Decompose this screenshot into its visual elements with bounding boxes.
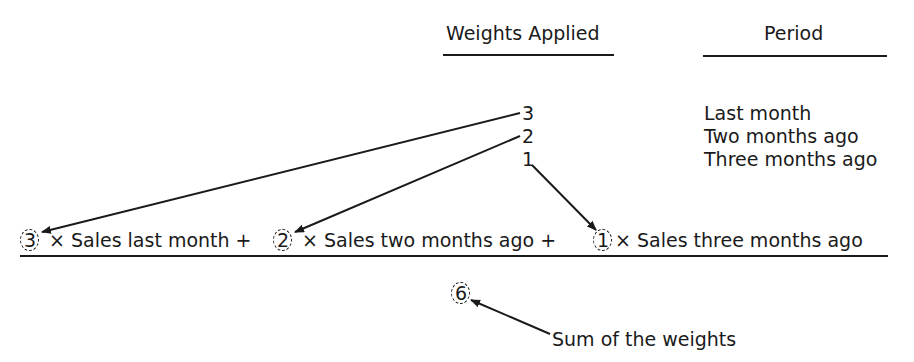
arrow-weight-3 (42, 113, 520, 232)
arrow-weight-2 (295, 136, 520, 232)
period-three-months-ago: Three months ago (704, 148, 877, 170)
formula-term-three-months-ago: × Sales three months ago (615, 229, 863, 251)
arrow-weight-1 (532, 165, 596, 230)
weights-applied-header: Weights Applied (446, 22, 600, 44)
fraction-bar (20, 255, 888, 257)
period-header: Period (764, 22, 823, 44)
formula-weight-2: 2 (277, 229, 289, 251)
period-two-months-ago: Two months ago (704, 125, 859, 147)
weights-header-underline (443, 54, 614, 56)
period-header-underline (703, 55, 887, 57)
weight-value-1: 1 (522, 148, 534, 170)
formula-weight-3: 3 (24, 229, 36, 251)
sum-of-weights-label: Sum of the weights (552, 328, 736, 350)
period-last-month: Last month (704, 102, 811, 124)
arrow-sum-of-weights (471, 300, 550, 334)
formula-term-two-months-ago: × Sales two months ago + (302, 229, 556, 251)
formula-denominator: 6 (455, 282, 467, 304)
weight-value-2: 2 (522, 125, 534, 147)
formula-weight-1: 1 (597, 229, 609, 251)
weight-value-3: 3 (522, 102, 534, 124)
formula-term-last-month: × Sales last month + (49, 229, 252, 251)
